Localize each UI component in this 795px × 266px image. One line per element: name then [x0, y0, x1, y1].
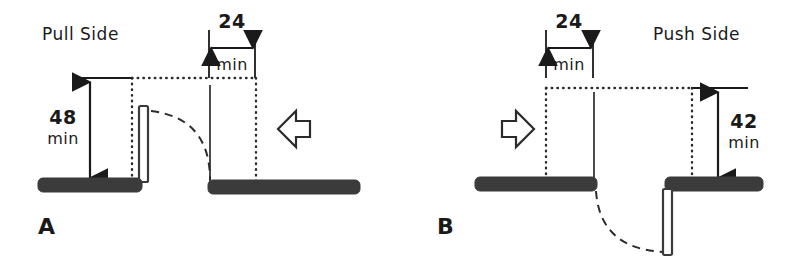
panel-a-dimension-24-value: 24: [218, 10, 245, 32]
panel-a-dimension-48-value: 48: [49, 106, 76, 128]
panel-a-wall-right: [208, 180, 360, 194]
panel-b: Push Side 24 min 42 min: [437, 10, 763, 255]
panel-a-label: A: [38, 214, 55, 239]
panel-b-dimension-42-qualifier: min: [728, 133, 760, 152]
panel-b-dimension-24: 24 min: [546, 10, 593, 78]
panel-a: Pull Side 24 min 48 min: [38, 10, 360, 239]
panel-b-wall-left: [475, 177, 597, 191]
panel-b-side-label: Push Side: [653, 24, 740, 44]
panel-b-wall-right: [665, 177, 763, 191]
panel-a-door-leaf: [139, 106, 148, 182]
arrow-left-icon: [278, 111, 310, 147]
panel-a-dimension-48-qualifier: min: [47, 129, 79, 148]
arrow-right-icon: [502, 111, 534, 147]
panel-a-wall-left: [38, 178, 142, 192]
diagram-canvas: Pull Side 24 min 48 min: [0, 0, 795, 266]
panel-a-swing-arc: [151, 111, 210, 180]
panel-a-dimension-24-qualifier: min: [216, 55, 248, 74]
panel-a-dimension-24: 24 min: [209, 10, 255, 78]
panel-b-dimension-24-value: 24: [555, 10, 582, 32]
panel-b-clearance-boundary: [546, 88, 693, 180]
panel-a-dimension-48: 48 min: [47, 78, 132, 178]
panel-b-dimension-42-value: 42: [730, 110, 757, 132]
door-clearance-figure: Pull Side 24 min 48 min: [0, 0, 795, 266]
panel-b-swing-arc: [596, 191, 666, 252]
panel-b-door-leaf: [663, 189, 672, 255]
panel-b-dimension-24-qualifier: min: [553, 55, 585, 74]
panel-b-dimension-42: 42 min: [692, 88, 760, 178]
panel-b-label: B: [437, 214, 454, 239]
panel-a-side-label: Pull Side: [42, 24, 119, 44]
